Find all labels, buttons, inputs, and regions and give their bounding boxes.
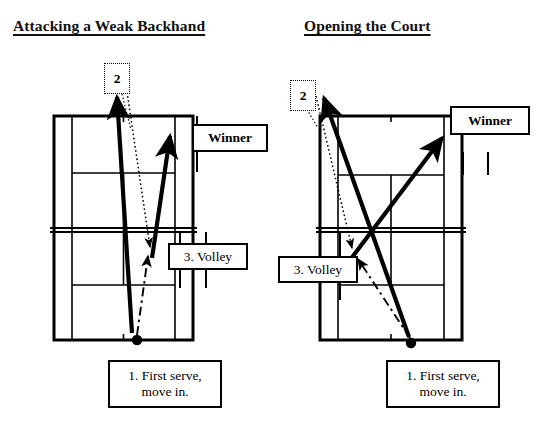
- left-winner-callout: Winner: [192, 124, 268, 152]
- left-first-serve-line-2: move in.: [141, 384, 188, 400]
- diagram-canvas: Attacking a Weak Backhand Opening the Co…: [0, 0, 556, 431]
- right-server-dot: [406, 338, 416, 348]
- left-first-serve-line-1: 1. First serve,: [128, 368, 202, 384]
- right-winner-callout: Winner: [450, 106, 530, 135]
- right-court-shots: [316, 96, 442, 348]
- right-winner-arrow: [344, 138, 442, 268]
- right-first-serve-line-2: move in.: [419, 384, 466, 400]
- right-court-lines: [316, 116, 466, 340]
- right-volley-callout: 3. Volley: [278, 256, 358, 283]
- left-volley-label: 3. Volley: [184, 249, 232, 265]
- right-first-serve-callout: 1. First serve, move in.: [386, 360, 500, 408]
- right-step-2-label: 2: [300, 88, 307, 104]
- left-step-2-callout: 2: [104, 63, 130, 94]
- right-volley-label: 3. Volley: [294, 262, 342, 278]
- left-court-shots: [117, 92, 170, 345]
- right-winner-label: Winner: [468, 113, 512, 129]
- left-step-2-label: 2: [114, 71, 121, 87]
- left-shot-1-arrow: [117, 97, 132, 333]
- left-first-serve-callout: 1. First serve, move in.: [108, 360, 222, 408]
- left-winner-label: Winner: [208, 130, 252, 146]
- left-winner-arrow: [152, 136, 170, 258]
- right-shot-1-arrow: [324, 98, 409, 337]
- left-movement-arrow: [137, 256, 148, 335]
- right-first-serve-line-1: 1. First serve,: [406, 368, 480, 384]
- left-server-dot: [132, 335, 142, 345]
- left-volley-callout: 3. Volley: [168, 243, 248, 270]
- right-step-2-callout: 2: [290, 80, 316, 111]
